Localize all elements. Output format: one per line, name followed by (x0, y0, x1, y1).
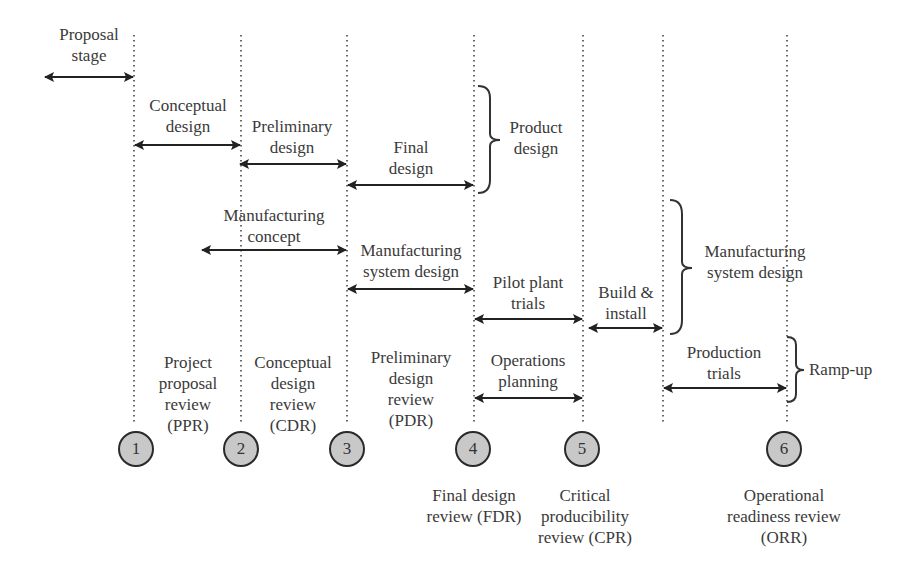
review-gate-4: 4 (455, 431, 491, 467)
label-preliminary-design: Preliminary design (252, 116, 332, 158)
label-manufacturing-system-design: Manufacturing system design (360, 240, 461, 282)
label-pilot-plant-trials: Pilot plant trials (493, 272, 563, 314)
label-product-design: Product design (510, 117, 563, 159)
label-operations-planning: Operations planning (491, 350, 566, 392)
review-label-cdr: Conceptual design review (CDR) (254, 352, 331, 436)
review-label-orr: Operational readiness review (ORR) (727, 485, 841, 548)
brace-manufacturing-system-design (670, 200, 692, 334)
review-gate-5: 5 (564, 431, 600, 467)
review-gate-1: 1 (118, 431, 154, 467)
review-gate-3: 3 (329, 431, 365, 467)
review-gate-2: 2 (223, 431, 259, 467)
review-label-pdr: Preliminary design review (PDR) (371, 347, 451, 431)
label-proposal-stage: Proposal stage (59, 24, 119, 66)
brace-product-design (478, 86, 500, 193)
label-manufacturing-system-design-group: Manufacturing system design (704, 241, 805, 283)
review-label-fdr: Final design review (FDR) (427, 485, 522, 527)
label-production-trials: Production trials (687, 342, 762, 384)
label-conceptual-design: Conceptual design (149, 95, 226, 137)
label-final-design: Final design (389, 137, 433, 179)
brace-ramp-up (787, 337, 804, 402)
review-label-ppr: Project proposal review (PPR) (159, 352, 218, 436)
review-gate-6: 6 (766, 431, 802, 467)
label-manufacturing-concept: Manufacturing concept (223, 205, 324, 247)
review-label-cpr: Critical producibility review (CPR) (538, 485, 632, 548)
label-ramp-up: Ramp-up (809, 359, 872, 380)
label-build-install: Build & install (598, 282, 653, 324)
